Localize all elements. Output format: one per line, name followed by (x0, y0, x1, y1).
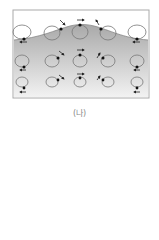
figure-caption: (나) (0, 107, 159, 118)
